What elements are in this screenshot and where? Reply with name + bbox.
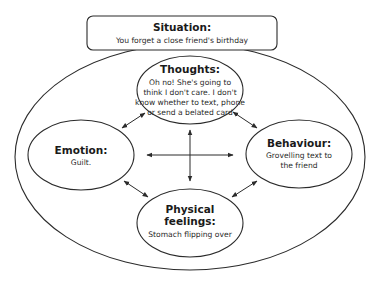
situation-box: Situation: You forget a close friend's b… [87,16,277,50]
emotion-line: Guilt. [71,158,91,167]
arrow-thoughts-behaviour [233,112,257,128]
physical-line: Stomach flipping over [148,230,232,239]
behaviour-title: Behaviour: [267,137,331,149]
situation-text: You forget a close friend's birthday [115,36,249,45]
arrow-emotion-physical [124,181,148,197]
thoughts-node: Thoughts: Oh no! She's going to think I … [135,56,245,124]
situation-title: Situation: [153,21,211,33]
thoughts-line: or send a belated card [147,108,233,117]
physical-title: Physical [166,203,215,215]
thoughts-title: Thoughts: [160,63,220,75]
behaviour-line: the friend [280,161,317,170]
physical-title: feelings: [164,215,215,227]
arrow-behaviour-physical [232,181,257,197]
behaviour-line: Grovelling text to [266,151,332,160]
emotion-title: Emotion: [55,144,108,156]
thoughts-line: think I don't care. I don't [143,88,236,97]
arrow-thoughts-emotion [122,113,145,128]
thoughts-line: Oh no! She's going to [149,78,231,87]
emotion-node: Emotion: Guilt. [28,120,134,190]
thoughts-line: know whether to text, phone [135,98,245,107]
behaviour-node: Behaviour: Grovelling text to the friend [246,120,352,188]
cbt-cycle-diagram: Situation: You forget a close friend's b… [0,0,383,284]
physical-node: Physical feelings: Stomach flipping over [137,189,243,257]
